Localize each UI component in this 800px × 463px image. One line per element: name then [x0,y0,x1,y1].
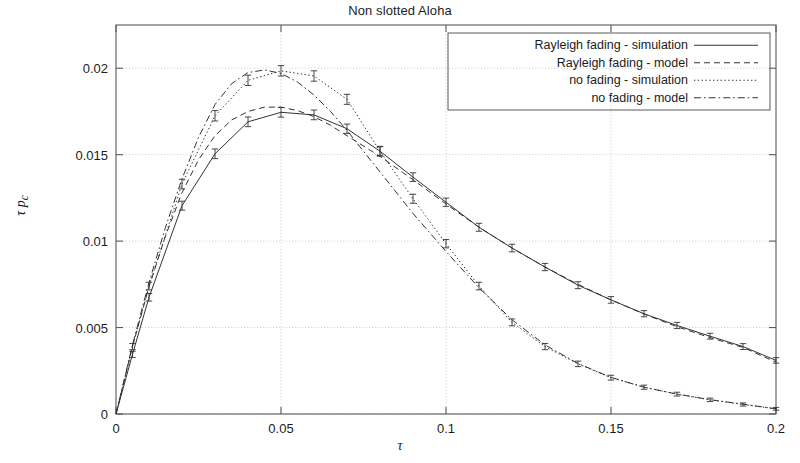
y-tick-label: 0.01 [30,234,108,249]
error-bar [212,111,218,121]
x-tick-label: 0.1 [437,421,455,436]
x-tick-label: 0.05 [268,421,293,436]
error-bar [773,358,779,364]
legend-item-label: no fading - model [454,91,688,105]
legend-item-label: Rayleigh fading - simulation [454,38,688,52]
error-bar [311,71,317,81]
chart-figure: Non slotted Aloha τ pc τ 00.0050.010.015… [0,0,800,463]
error-bar [608,297,614,304]
y-tick-label: 0.02 [30,61,108,76]
y-tick-label: 0.015 [30,147,108,162]
legend-item-label: Rayleigh fading - model [454,56,688,70]
y-axis-label-text: τ p [13,200,28,216]
x-axis-label: τ [0,438,800,454]
error-bar [344,124,350,133]
x-tick-label: 0.15 [598,421,623,436]
error-bar [410,194,416,203]
error-bar [245,75,251,85]
legend-item-label: no fading - simulation [454,73,688,87]
y-tick-label: 0 [30,407,108,422]
error-bar [245,117,251,127]
y-axis-label-subscript: c [18,195,31,200]
x-tick-label: 0.2 [767,421,785,436]
y-tick-label: 0.005 [30,320,108,335]
y-axis-label: τ pc [13,185,32,225]
x-tick-label: 0 [112,421,119,436]
